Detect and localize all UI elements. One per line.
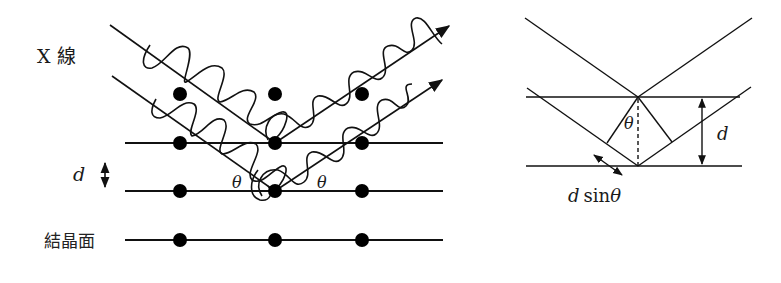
upper-reflected-ray (638, 18, 752, 97)
bragg-diffraction-figure: X 線 d 結晶面 θ θ θ d dsinθ (0, 0, 781, 283)
crystal-plane-label: 結晶面 (44, 231, 95, 251)
spacing-label-right: d (717, 123, 729, 144)
spacing-label-left: d (73, 163, 85, 185)
atom (355, 184, 369, 198)
reflected-wave-2 (259, 84, 412, 196)
atom (173, 233, 187, 247)
atom (268, 87, 282, 101)
incident-wave-1 (143, 45, 286, 138)
path-difference-label: dsinθ (568, 185, 621, 206)
atom (355, 87, 369, 101)
atom (268, 136, 282, 150)
path-difference-theta: θ (610, 185, 621, 206)
incident-wave-2 (152, 99, 286, 192)
path-difference-d: d (568, 185, 580, 206)
atom (173, 136, 187, 150)
path-difference-arrow (594, 155, 622, 175)
perpendicular-right (638, 97, 672, 142)
right-diagram (525, 18, 752, 175)
lower-incident-ray (527, 88, 638, 166)
atom (173, 87, 187, 101)
atom (355, 136, 369, 150)
atom (355, 233, 369, 247)
left-diagram (110, 18, 449, 240)
upper-incident-ray (525, 18, 638, 97)
atom (268, 184, 282, 198)
lower-reflected-ray (638, 87, 751, 166)
figure-svg: X 線 d 結晶面 θ θ θ d dsinθ (0, 0, 781, 283)
atom (268, 233, 282, 247)
path-difference-sin: sin (584, 185, 611, 206)
angle-label-right: θ (317, 173, 327, 192)
angle-label-right-diagram: θ (624, 114, 634, 133)
angle-label-left: θ (232, 173, 242, 192)
reflected-wave-1 (266, 18, 442, 140)
atom-lattice (173, 87, 369, 247)
atom (173, 184, 187, 198)
xray-label: X 線 (37, 45, 76, 67)
